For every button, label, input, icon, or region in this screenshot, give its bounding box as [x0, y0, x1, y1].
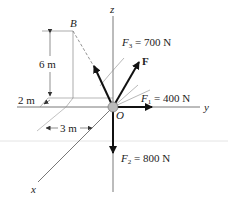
f-arrow — [113, 62, 139, 107]
f3-arrow — [94, 66, 113, 107]
y-axis-label: y — [204, 102, 209, 113]
f-label: F — [142, 56, 149, 67]
f1-label: F1 = 400 N — [141, 93, 190, 106]
force-diagram: B z y x O 6 m 2 m 3 m F3 = 700 N F F1 = … — [0, 0, 228, 204]
f3-label: F3 = 700 N — [122, 37, 171, 50]
point-b-label: B — [70, 18, 77, 29]
f2-label: F2 = 800 N — [121, 153, 170, 166]
z-axis-label: z — [110, 4, 114, 15]
x-axis — [38, 107, 113, 182]
origin-label: O — [116, 110, 124, 121]
height-dimension: 6 m — [39, 59, 56, 70]
y-offset-dimension: 3 m — [60, 123, 77, 134]
line-b-to-o — [73, 31, 96, 70]
x-offset-dimension: 2 m — [18, 95, 35, 106]
x-axis-label: x — [31, 184, 36, 195]
